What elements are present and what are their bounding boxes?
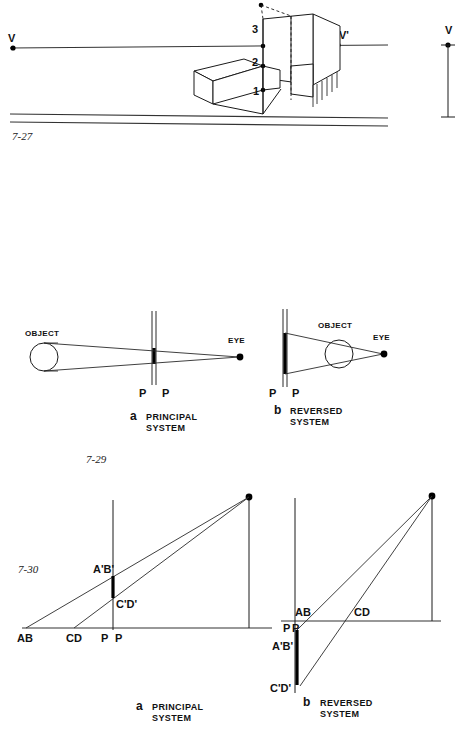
figure-7-29-number: 7-29 [86, 453, 107, 465]
lowbox-wedge [263, 66, 280, 90]
a30-label-p-left: P [101, 632, 108, 644]
lowbox-wedge-ground [263, 89, 281, 114]
a30-label-p-right: P [115, 632, 122, 644]
b30-caption-line1: REVERSED [320, 698, 373, 708]
a-object-circle [30, 343, 58, 371]
vanishing-point-left-dot [10, 45, 15, 50]
a30-caption-letter: a [136, 699, 143, 713]
a30-label-ab-prime: A'B' [93, 563, 115, 575]
a-sight-ray-bottom [44, 357, 239, 371]
figure-plate: V V' [0, 0, 457, 736]
figure-7-27-number: 7-27 [12, 130, 33, 142]
b30-ray-cd [300, 496, 432, 686]
a-eye-label: EYE [228, 336, 245, 345]
a-sight-ray-top [44, 343, 239, 357]
a30-ray-ab [26, 497, 249, 628]
a30-caption-line1: PRINCIPAL [152, 702, 204, 712]
a30-label-cd: CD [66, 632, 82, 644]
b30-caption-line2: SYSTEM [320, 709, 359, 719]
b-caption-letter: b [274, 403, 281, 417]
figure-7-29-canvas: OBJECT EYE P P a PRINCIPAL SYSTEM OBJECT [0, 295, 457, 475]
a-eye-dot [237, 354, 244, 361]
building-lower-return [291, 64, 313, 97]
a30-caption-line2: SYSTEM [152, 713, 191, 723]
b-caption-line2: SYSTEM [290, 417, 329, 427]
b30-caption-letter: b [303, 695, 310, 709]
a-object-label: OBJECT [25, 329, 59, 338]
a-caption-line1: PRINCIPAL [146, 412, 198, 422]
a30-label-ab: AB [17, 632, 33, 644]
b30-label-p-left: P [283, 622, 290, 634]
b-pp-label-right: P [292, 387, 299, 399]
vanishing-point-left-label: V [8, 32, 16, 44]
ground-line [10, 114, 388, 118]
figure-7-30-canvas: A'B' C'D' AB CD P P 7-30 a PRINCIPAL SYS… [0, 478, 457, 736]
building-right-face [313, 14, 340, 85]
construction-dash-apex-to-corner [261, 5, 263, 19]
point-2-label: 2 [252, 56, 258, 68]
construction-dash-apex-to-edge [261, 5, 291, 16]
a-pp-label-left: P [139, 387, 146, 399]
measure-scale-label: V [445, 24, 453, 36]
point-1-label: 1 [253, 85, 259, 97]
a30-label-cd-prime: C'D' [116, 598, 138, 610]
b30-label-ab-prime: A'B' [272, 640, 294, 652]
a-pp-label-right: P [162, 387, 169, 399]
b-caption-line1: REVERSED [290, 406, 343, 416]
b-eye-dot [381, 351, 388, 358]
figure-7-29: OBJECT EYE P P a PRINCIPAL SYSTEM OBJECT [0, 295, 457, 475]
a-caption-letter: a [130, 409, 137, 423]
figure-7-30: A'B' C'D' AB CD P P 7-30 a PRINCIPAL SYS… [0, 478, 457, 736]
figure-7-27-canvas: V V' [0, 0, 457, 160]
figure-7-27: V V' [0, 0, 457, 160]
b30-label-cd-prime: C'D' [270, 682, 292, 694]
a-caption-line2: SYSTEM [146, 423, 185, 433]
b-pp-label-left: P [269, 387, 276, 399]
b30-label-ab: AB [295, 606, 311, 618]
figure-7-30-number: 7-30 [18, 563, 39, 575]
b-object-label: OBJECT [318, 321, 352, 330]
point-3-label: 3 [252, 23, 258, 35]
lowbox-ground-edge [213, 104, 263, 114]
b-eye-label: EYE [373, 333, 390, 342]
vanishing-point-right-label: V' [339, 29, 349, 41]
b30-label-cd: CD [354, 606, 370, 618]
b30-label-p-right: P [292, 622, 299, 634]
figure-baseline [10, 122, 388, 126]
